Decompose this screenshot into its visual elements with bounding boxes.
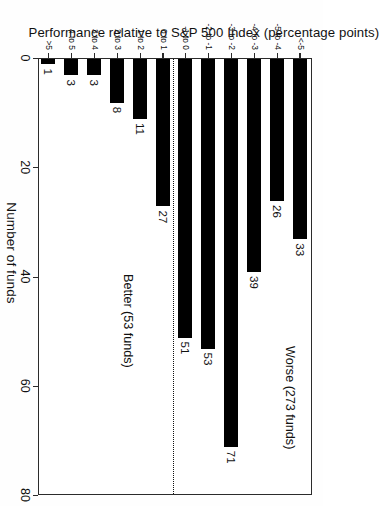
bar (247, 59, 261, 272)
category-axis-tick-label: 2 to 3 (113, 29, 123, 50)
bar-value-label: 11 (134, 123, 146, 135)
bar (178, 59, 192, 338)
category-axis-tick-label: -3 to -2 (227, 23, 237, 50)
value-axis-tick-label: 40 (18, 270, 32, 284)
value-axis-tick (33, 58, 38, 59)
value-axis-tick (33, 167, 38, 168)
plot-area: 33263971535127118331Worse (273 funds)Bet… (38, 58, 312, 495)
bar (156, 59, 170, 206)
category-axis-tick-label: <-5 (296, 38, 306, 50)
value-axis-tick (33, 495, 38, 496)
category-axis-tick (162, 53, 163, 58)
bar-value-label: 8 (111, 107, 123, 113)
bar-value-label: 33 (294, 243, 306, 256)
bar-value-label: 39 (248, 276, 260, 289)
category-axis-tick (71, 53, 72, 58)
category-axis-tick (48, 53, 49, 58)
bar (224, 59, 238, 447)
category-axis-tick (277, 53, 278, 58)
worse-group-label: Worse (273 funds) (283, 346, 297, 449)
category-axis-tick (231, 53, 232, 58)
value-axis-tick-label: 20 (18, 160, 32, 174)
category-axis-tick (299, 53, 300, 58)
bar-value-label: 27 (157, 210, 169, 223)
category-axis-tick-label: -4 to -3 (250, 23, 260, 50)
category-axis-tick-label: >5 (44, 40, 54, 50)
bar (270, 59, 284, 201)
value-axis: 020406080 (12, 58, 38, 495)
category-axis-tick (185, 53, 186, 58)
value-axis-tick-label: 0 (18, 55, 32, 62)
bar-value-label: 3 (65, 79, 77, 85)
bar-value-label: 26 (271, 205, 283, 218)
category-axis-tick-label: -2 to -1 (204, 23, 214, 50)
value-axis-tick (33, 277, 38, 278)
value-axis-tick-label: 80 (18, 488, 32, 502)
bar-value-label: 1 (42, 68, 54, 74)
bar-value-label: 53 (202, 353, 214, 366)
category-axis-tick (140, 53, 141, 58)
bar (87, 59, 101, 75)
group-divider-line (173, 59, 174, 494)
category-axis-tick-label: 0 to 1 (159, 29, 169, 50)
category-axis-tick (117, 53, 118, 58)
category-axis-tick-label: 3 to 4 (90, 29, 100, 50)
better-group-label: Better (53 funds) (121, 274, 135, 368)
bar (41, 59, 55, 64)
category-axis-tick (208, 53, 209, 58)
category-axis-tick-label: 4 to 5 (67, 29, 77, 50)
category-axis-tick (254, 53, 255, 58)
bar (293, 59, 307, 239)
value-axis-tick (33, 386, 38, 387)
bar (64, 59, 78, 75)
bar-value-label: 3 (88, 79, 100, 85)
bar-value-label: 71 (225, 451, 237, 464)
category-axis-tick-label: -1 to 0 (181, 26, 191, 50)
bar (201, 59, 215, 349)
category-axis-tick (94, 53, 95, 58)
category-axis: <-5-5 to -4-4 to -3-3 to -2-2 to -1-1 to… (38, 0, 312, 58)
category-axis-tick-label: 1 to 2 (136, 29, 146, 50)
bar (110, 59, 124, 103)
category-axis-tick-label: -5 to -4 (273, 23, 283, 50)
value-axis-tick-label: 60 (18, 379, 32, 393)
bar (133, 59, 147, 119)
bar-value-label: 51 (179, 342, 191, 355)
